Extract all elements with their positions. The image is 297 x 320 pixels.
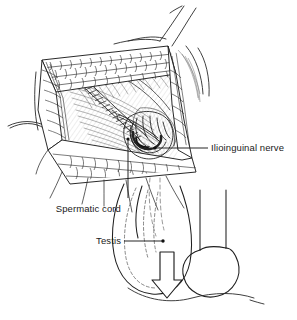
illustration-canvas: Ilioinguinal nerve Spermatic cord Testis xyxy=(0,0,297,320)
label-spermatic-cord: Spermatic cord xyxy=(56,203,121,214)
label-testis: Testis xyxy=(96,235,121,246)
medical-illustration: Ilioinguinal nerve Spermatic cord Testis xyxy=(0,0,297,320)
label-ilioinguinal-nerve: Ilioinguinal nerve xyxy=(211,142,284,153)
cord-dot-marker xyxy=(126,137,129,140)
testis-dot-marker xyxy=(161,239,164,242)
nerve-dot-marker xyxy=(153,146,156,149)
